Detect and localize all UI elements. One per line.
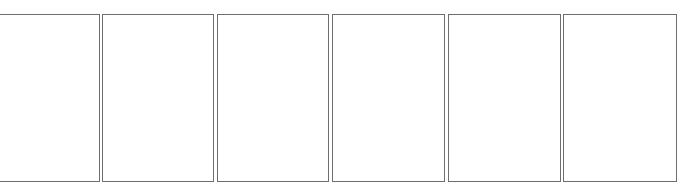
panel-6 [563,14,677,182]
panel-1 [0,14,100,182]
panel-4 [332,14,445,182]
panel-5 [448,14,561,182]
panel-3 [217,14,329,182]
panel-2 [102,14,214,182]
